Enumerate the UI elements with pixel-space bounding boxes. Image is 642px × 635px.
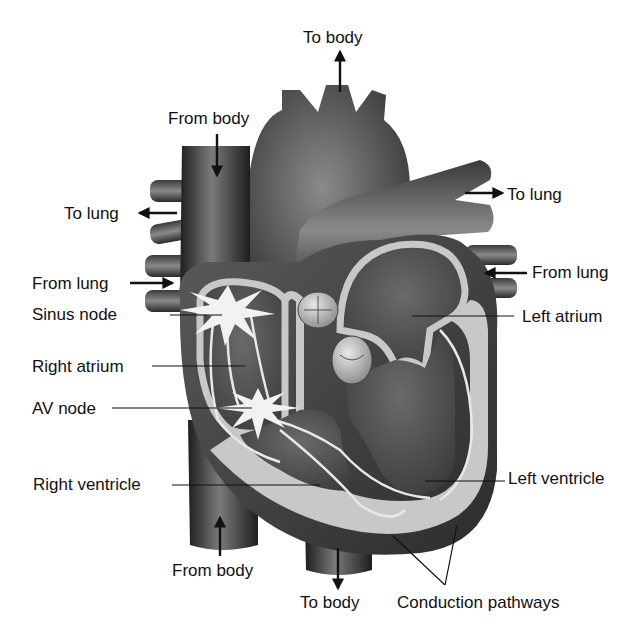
label-left-atrium: Left atrium <box>522 307 602 327</box>
label-sinus-node: Sinus node <box>32 305 117 325</box>
label-from-lung-right: From lung <box>532 263 609 283</box>
label-conduction-pathways: Conduction pathways <box>397 593 560 613</box>
label-to-body-bottom: To body <box>300 593 360 613</box>
label-av-node: AV node <box>32 399 96 419</box>
label-to-lung-left: To lung <box>64 204 119 224</box>
label-right-ventricle: Right ventricle <box>33 475 141 495</box>
label-from-body-top: From body <box>168 109 249 129</box>
heart-diagram: To body From body To lung To lung From l… <box>0 0 642 635</box>
label-to-lung-right: To lung <box>507 185 562 205</box>
label-right-atrium: Right atrium <box>32 357 124 377</box>
label-from-body-bottom: From body <box>172 561 253 581</box>
label-to-body-top: To body <box>303 28 363 48</box>
label-from-lung-left: From lung <box>32 274 109 294</box>
label-left-ventricle: Left ventricle <box>508 469 604 489</box>
